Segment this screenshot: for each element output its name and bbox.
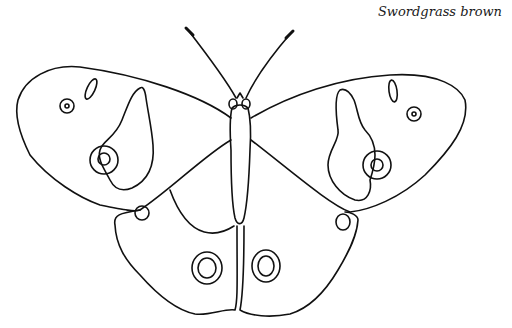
right-forewing-dash	[388, 80, 399, 103]
right-hindwing-eyespot-center	[258, 256, 274, 276]
left-hindwing-eyespot-center	[198, 258, 216, 278]
right-forewing-small-eyespot-center	[412, 112, 416, 116]
coloring-page: Swordgrass brown	[0, 0, 512, 328]
right-hindwing-eyespot	[252, 250, 280, 282]
left-hindwing	[115, 190, 237, 314]
butterfly-drawing	[0, 0, 512, 328]
right-forewing-eyespot	[363, 151, 391, 179]
left-forewing-small-eyespot-center	[65, 104, 69, 108]
left-forewing-dash	[83, 77, 100, 100]
right-forewing	[251, 75, 466, 212]
left-forewing-patch	[99, 87, 153, 189]
left-hindwing-eyespot	[192, 252, 222, 284]
left-forewing-small-eyespot	[60, 99, 74, 113]
right-forewing-small-eyespot	[407, 107, 421, 121]
right-forewing-patch	[328, 89, 375, 200]
antennae	[186, 28, 293, 98]
right-forewing-eyespot-center	[371, 159, 383, 171]
right-hindwing-spot	[336, 214, 350, 230]
thorax-abdomen	[230, 105, 251, 224]
